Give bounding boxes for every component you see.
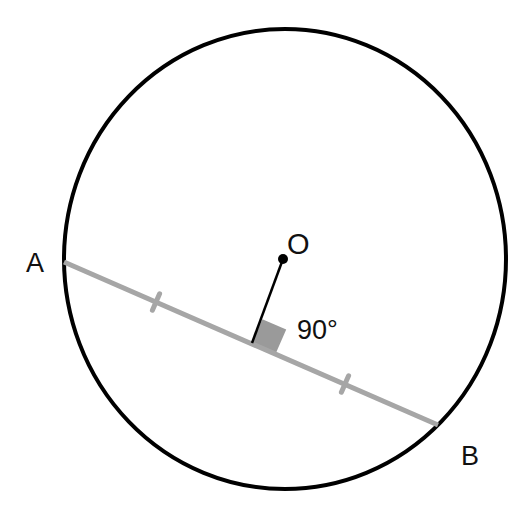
label-b: B <box>461 441 479 471</box>
circle-chord-diagram: A B O 90° <box>0 0 522 505</box>
tick-mark-right <box>341 376 348 393</box>
label-o: O <box>287 228 310 260</box>
label-angle-90: 90° <box>297 315 338 345</box>
chord-ab <box>64 262 438 425</box>
tick-mark-left <box>152 294 159 311</box>
label-a: A <box>26 248 44 278</box>
